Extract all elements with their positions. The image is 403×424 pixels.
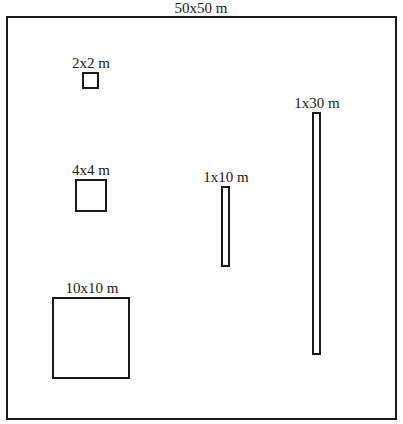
- plot-10x10-label: 10x10 m: [66, 281, 119, 296]
- outer-area-label: 50x50 m: [175, 1, 228, 16]
- plot-1x10: [221, 186, 230, 267]
- plot-2x2: [82, 72, 99, 89]
- plot-10x10: [52, 297, 130, 379]
- plot-1x10-label: 1x10 m: [203, 170, 248, 185]
- plot-4x4: [75, 179, 107, 212]
- plot-4x4-label: 4x4 m: [72, 163, 110, 178]
- plot-2x2-label: 2x2 m: [72, 56, 110, 71]
- plot-1x30: [312, 112, 321, 355]
- plot-1x30-label: 1x30 m: [294, 96, 339, 111]
